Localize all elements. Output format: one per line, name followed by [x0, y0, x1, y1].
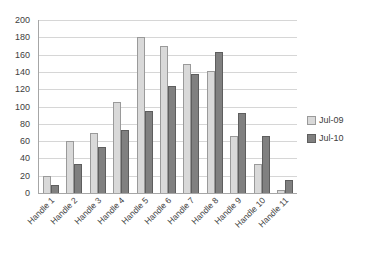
legend-swatch-icon	[307, 116, 316, 125]
bar-group	[62, 20, 85, 193]
y-axis-tick-label: 160	[15, 50, 30, 59]
bar[interactable]	[113, 102, 121, 193]
bar[interactable]	[215, 52, 223, 193]
legend-item[interactable]: Jul-10	[307, 134, 377, 143]
legend-item[interactable]: Jul-09	[307, 116, 377, 125]
legend-item-label: Jul-10	[319, 134, 344, 143]
bar[interactable]	[183, 64, 191, 193]
y-axis-tick-label: 0	[25, 189, 30, 198]
y-axis-tick-label: 40	[20, 154, 30, 163]
x-axis-tick: Handle 11	[273, 194, 296, 253]
bar[interactable]	[277, 190, 285, 193]
plot-area	[38, 20, 297, 194]
bar[interactable]	[238, 113, 246, 193]
bars-layer	[39, 20, 297, 193]
bar[interactable]	[254, 164, 262, 193]
bar[interactable]	[137, 37, 145, 193]
x-axis: Handle 1Handle 2Handle 3Handle 4Handle 5…	[38, 194, 296, 253]
bar-group	[133, 20, 156, 193]
bar[interactable]	[51, 185, 59, 193]
y-axis-tick-label: 120	[15, 85, 30, 94]
bar[interactable]	[90, 133, 98, 193]
legend-swatch-icon	[307, 134, 316, 143]
bar[interactable]	[230, 136, 238, 193]
y-axis: 020406080100120140160180200	[0, 20, 33, 193]
bar-group	[203, 20, 226, 193]
bar-group	[227, 20, 250, 193]
bar-group	[86, 20, 109, 193]
legend-item-label: Jul-09	[319, 116, 344, 125]
bar-group	[109, 20, 132, 193]
bar[interactable]	[66, 141, 74, 193]
bar-group	[180, 20, 203, 193]
bar-group	[156, 20, 179, 193]
bar[interactable]	[207, 71, 215, 193]
y-axis-tick-label: 180	[15, 33, 30, 42]
y-axis-tick-label: 200	[15, 16, 30, 25]
chart-legend: Jul-09Jul-10	[307, 116, 377, 152]
bar[interactable]	[121, 130, 129, 193]
bar[interactable]	[160, 46, 168, 193]
bar[interactable]	[74, 164, 82, 193]
bar[interactable]	[191, 74, 199, 193]
y-axis-tick-label: 60	[20, 137, 30, 146]
bar[interactable]	[285, 180, 293, 193]
bar[interactable]	[262, 136, 270, 193]
bar-group	[274, 20, 297, 193]
bar[interactable]	[43, 176, 51, 193]
bar-group	[250, 20, 273, 193]
bar[interactable]	[145, 111, 153, 193]
bar[interactable]	[168, 86, 176, 193]
y-axis-tick-label: 140	[15, 67, 30, 76]
bar[interactable]	[98, 147, 106, 193]
y-axis-tick-label: 80	[20, 119, 30, 128]
y-axis-tick-label: 20	[20, 171, 30, 180]
y-axis-tick-label: 100	[15, 102, 30, 111]
bar-group	[39, 20, 62, 193]
bar-chart: 020406080100120140160180200 Handle 1Hand…	[0, 0, 377, 253]
